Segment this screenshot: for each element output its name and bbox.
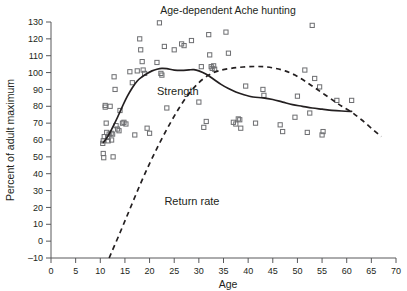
y-tick-label: 130 xyxy=(28,17,43,27)
data-point-marker xyxy=(165,106,169,110)
data-point-marker xyxy=(244,84,248,88)
y-tick-label: 60 xyxy=(33,135,43,145)
x-tick-label: 0 xyxy=(48,266,53,276)
data-point-marker xyxy=(253,121,257,125)
data-point-marker xyxy=(197,100,201,104)
y-tick-label: 20 xyxy=(33,203,43,213)
y-tick-label: 90 xyxy=(33,85,43,95)
data-point-marker xyxy=(128,70,132,74)
curve-label-strength: Strength xyxy=(157,85,199,97)
data-point-marker xyxy=(155,60,159,64)
x-tick-label: 60 xyxy=(342,266,352,276)
x-tick-label: 15 xyxy=(120,266,130,276)
data-point-marker xyxy=(202,125,206,129)
chart-title: Age-dependent Ache hunting xyxy=(160,4,296,16)
data-point-marker xyxy=(226,51,230,55)
data-point-marker xyxy=(113,87,117,91)
data-point-marker xyxy=(224,30,228,34)
data-point-marker xyxy=(145,126,149,130)
data-point-marker xyxy=(308,111,312,115)
data-point-marker xyxy=(199,65,203,69)
data-point-marker xyxy=(139,48,143,52)
data-point-marker xyxy=(172,48,176,52)
y-tick-label: 100 xyxy=(28,68,43,78)
data-point-marker xyxy=(305,130,309,134)
x-tick-label: 20 xyxy=(145,266,155,276)
data-point-marker xyxy=(104,121,108,125)
data-point-marker xyxy=(350,98,354,102)
data-point-marker xyxy=(318,85,322,89)
data-point-marker xyxy=(102,156,106,160)
y-tick-label: 120 xyxy=(28,34,43,44)
strength-curve xyxy=(103,68,351,142)
chart-figure: Age-dependent Ache hunting Percent of ad… xyxy=(0,0,407,291)
data-point-marker xyxy=(293,115,297,119)
x-tick-label: 35 xyxy=(218,266,228,276)
data-point-marker xyxy=(239,126,243,130)
y-tick-label: 80 xyxy=(33,101,43,111)
y-tick-label: 70 xyxy=(33,118,43,128)
data-point-marker xyxy=(278,123,282,127)
curve-annotations: StrengthReturn rate xyxy=(157,85,219,207)
x-tick-label: 45 xyxy=(268,266,278,276)
data-point-marker xyxy=(138,37,142,41)
y-tick-label: 50 xyxy=(33,152,43,162)
data-point-marker xyxy=(133,133,137,137)
data-point-marker xyxy=(295,94,299,98)
data-point-marker xyxy=(313,76,317,80)
x-tick-label: 55 xyxy=(317,266,327,276)
x-tick-label: 10 xyxy=(95,266,105,276)
x-tick-label: 40 xyxy=(243,266,253,276)
x-tick-label: 70 xyxy=(391,266,401,276)
y-axis-ticks: –100102030405060708090100110120130 xyxy=(28,17,51,263)
data-point-marker xyxy=(208,53,212,57)
x-tick-label: 30 xyxy=(194,266,204,276)
y-tick-label: –10 xyxy=(28,253,43,263)
y-tick-label: 10 xyxy=(33,219,43,229)
data-point-marker xyxy=(101,151,105,155)
scatter-markers xyxy=(101,21,354,160)
data-point-marker xyxy=(204,119,208,123)
y-tick-label: 0 xyxy=(38,236,43,246)
x-tick-label: 65 xyxy=(366,266,376,276)
y-tick-label: 40 xyxy=(33,169,43,179)
data-point-marker xyxy=(303,68,307,72)
curve-label-return-rate: Return rate xyxy=(164,195,219,207)
x-axis-ticks: 0510152025303540455055606570 xyxy=(48,258,401,276)
data-point-marker xyxy=(281,129,285,133)
data-point-marker xyxy=(157,21,161,25)
data-point-marker xyxy=(262,93,266,97)
data-point-marker xyxy=(162,44,166,48)
age-dependent-ache-hunting-chart: Age-dependent Ache hunting Percent of ad… xyxy=(0,0,407,291)
data-point-marker xyxy=(112,75,116,79)
x-axis-label: Age xyxy=(219,278,238,290)
data-point-marker xyxy=(140,60,144,64)
data-point-marker xyxy=(147,131,151,135)
data-point-marker xyxy=(135,69,139,73)
y-axis-label: Percent of adult maximum xyxy=(4,79,16,201)
y-tick-label: 30 xyxy=(33,186,43,196)
data-point-marker xyxy=(207,33,211,37)
data-point-marker xyxy=(111,155,115,159)
data-point-marker xyxy=(261,87,265,91)
x-tick-label: 50 xyxy=(292,266,302,276)
data-point-marker xyxy=(108,104,112,108)
x-tick-label: 5 xyxy=(73,266,78,276)
data-point-marker xyxy=(335,98,339,102)
x-tick-label: 25 xyxy=(169,266,179,276)
data-point-marker xyxy=(310,23,314,27)
y-tick-label: 110 xyxy=(29,51,43,61)
data-point-marker xyxy=(189,38,193,42)
